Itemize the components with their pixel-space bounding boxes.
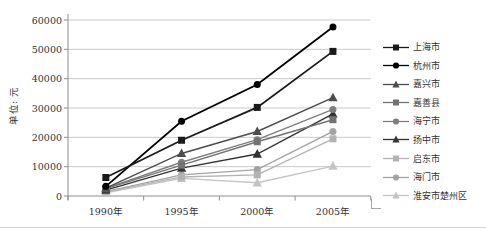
series-line-1: [106, 27, 333, 186]
legend-item-6: 启东市: [383, 154, 467, 164]
legend-label-1: 杭州市: [413, 61, 440, 71]
legend-item-3: 嘉善县: [383, 98, 467, 108]
legend-label-8: 淮安市楚州区: [413, 191, 467, 201]
data-point-series-6: [254, 171, 261, 178]
legend-label-0: 上海市: [413, 42, 440, 52]
y-tick-label: 20000: [32, 132, 62, 143]
x-tick-label: 2005年: [316, 206, 350, 217]
square-legend-marker-icon: [383, 97, 409, 108]
data-point-series-2: [253, 127, 262, 136]
data-point-series-3: [254, 138, 261, 145]
data-point-series-0: [254, 104, 261, 111]
x-tick-label: 1995年: [164, 206, 198, 217]
legend-item-1: 杭州市: [383, 61, 467, 71]
line-chart-figure: 01000020000300004000050000600001990年1995…: [0, 0, 486, 230]
legend: 上海市杭州市嘉兴市嘉善县海宁市扬中市启东市海门市淮安市楚州区: [383, 42, 467, 209]
data-point-series-5: [253, 149, 262, 158]
legend-item-4: 海宁市: [383, 116, 467, 126]
legend-label-3: 嘉善县: [413, 98, 440, 108]
circle-legend-marker-icon: [383, 116, 409, 127]
data-point-series-2: [328, 93, 337, 102]
y-tick-label: 0: [56, 191, 62, 202]
series-line-0: [106, 51, 333, 177]
legend-item-5: 扬中市: [383, 135, 467, 145]
legend-label-6: 启东市: [413, 154, 440, 164]
y-axis-label: 单位: 元: [6, 75, 19, 137]
circle-legend-marker-icon: [383, 60, 409, 71]
cell-corner-mark: [371, 199, 381, 209]
data-point-series-0: [102, 174, 109, 181]
legend-item-7: 海门市: [383, 172, 467, 182]
y-tick-label: 60000: [32, 15, 62, 26]
legend-label-5: 扬中市: [413, 135, 440, 145]
bottom-border-line: [0, 227, 486, 228]
y-tick-label: 40000: [32, 73, 62, 84]
legend-label-7: 海门市: [413, 172, 440, 182]
series-line-2: [106, 98, 333, 188]
data-point-series-1: [178, 118, 185, 125]
data-point-series-8: [328, 161, 337, 170]
data-point-series-7: [329, 128, 336, 135]
series-line-3: [106, 120, 333, 189]
data-point-series-4: [329, 106, 336, 113]
y-tick-label: 50000: [32, 44, 62, 55]
data-point-series-3: [178, 162, 185, 169]
triangle-legend-marker-icon: [383, 79, 409, 90]
circle-legend-marker-icon: [383, 172, 409, 183]
triangle-legend-marker-icon: [383, 134, 409, 145]
data-point-series-1: [329, 24, 336, 31]
data-point-series-6: [329, 135, 336, 142]
square-legend-marker-icon: [383, 153, 409, 164]
data-point-series-0: [178, 137, 185, 144]
legend-label-4: 海宁市: [413, 116, 440, 126]
legend-label-2: 嘉兴市: [413, 79, 440, 89]
data-point-series-3: [329, 116, 336, 123]
data-point-series-1: [102, 183, 109, 190]
square-legend-marker-icon: [383, 42, 409, 53]
legend-item-0: 上海市: [383, 42, 467, 52]
data-point-series-1: [254, 81, 261, 88]
x-tick-label: 1990年: [89, 206, 123, 217]
legend-item-2: 嘉兴市: [383, 79, 467, 89]
data-point-series-6: [178, 173, 185, 180]
x-tick-label: 2000年: [240, 206, 274, 217]
y-tick-label: 30000: [32, 103, 62, 114]
y-tick-label: 10000: [32, 161, 62, 172]
series-line-8: [106, 166, 333, 193]
data-point-series-0: [329, 48, 336, 55]
triangle-legend-marker-icon: [383, 190, 409, 201]
legend-item-8: 淮安市楚州区: [383, 191, 467, 201]
